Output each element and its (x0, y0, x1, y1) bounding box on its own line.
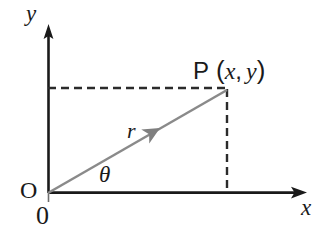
origin-letter-label: O (20, 178, 37, 202)
radius-arrowhead-icon (141, 121, 164, 143)
y-axis-label: y (26, 2, 36, 25)
point-p-comma: , (235, 57, 242, 84)
point-p-label: P(x,y) (193, 57, 265, 83)
radius-label: r (127, 120, 136, 142)
point-p-x-variable: x (225, 58, 236, 84)
polar-coordinate-diagram: y x r θ O 0 P(x,y) (0, 0, 324, 241)
point-p-y-variable: y (242, 58, 257, 84)
y-axis (44, 24, 54, 193)
point-p-name: P (193, 57, 209, 84)
x-axis (48, 187, 307, 199)
origin-zero-label: 0 (36, 203, 49, 229)
angle-theta-label: θ (99, 163, 110, 186)
x-axis-label: x (301, 196, 311, 219)
radius-ray-line (48, 90, 227, 193)
radius-ray (48, 90, 227, 193)
point-p-close-paren: ) (257, 55, 266, 85)
point-p-open-paren: ( (209, 55, 225, 85)
